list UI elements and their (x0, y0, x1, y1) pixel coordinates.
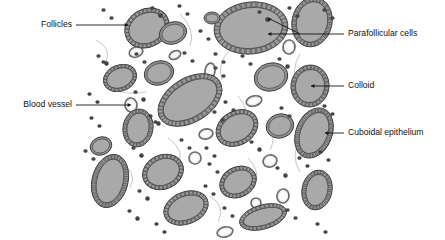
callout-follicles[interactable]: Follicles (41, 19, 128, 29)
epithelial-cell (329, 125, 333, 127)
epithelial-cell (295, 139, 299, 141)
epithelial-cell (143, 171, 147, 174)
parafollicular-cell (135, 52, 139, 55)
epithelial-cell (241, 3, 246, 9)
follicle (251, 59, 291, 95)
parafollicular-cell (149, 114, 153, 117)
parafollicular-cluster (180, 138, 192, 149)
parafollicular-cluster (224, 100, 236, 111)
parafollicular-cell (288, 6, 292, 9)
parafollicular-cell (280, 106, 284, 109)
parafollicular-cell (224, 100, 228, 103)
blood-vessel (276, 188, 290, 204)
parafollicular-cell (188, 146, 192, 149)
epithelial-cell (302, 186, 306, 189)
epithelial-cell (308, 42, 311, 46)
epithelial-cell (233, 194, 236, 197)
epithelial-cell (220, 185, 224, 189)
follicle (237, 199, 290, 235)
epithelial-cell (122, 65, 125, 68)
epithelial-cell (292, 22, 296, 25)
parafollicular-cell (151, 6, 155, 9)
parafollicular-cell (296, 14, 300, 17)
callout-cuboidal-epithelium[interactable]: Cuboidal epithelium (325, 127, 423, 137)
parafollicular-cluster (208, 162, 220, 173)
epithelial-cell (112, 155, 114, 159)
parafollicular-cell (207, 37, 211, 40)
epithelial-cell (240, 166, 243, 169)
epithelial-cell (295, 143, 299, 146)
parafollicular-cell (319, 150, 323, 153)
parafollicular-cluster (204, 184, 216, 195)
epithelial-cell (133, 74, 136, 77)
parafollicular-cell (92, 157, 96, 160)
follicle (211, 0, 290, 58)
parafollicular-cluster (316, 222, 328, 233)
epithelial-cell (310, 153, 313, 157)
epithelial-cell (256, 206, 260, 210)
epithelial-cell (159, 155, 163, 159)
stroma-strand (210, 196, 221, 222)
epithelial-cell (309, 0, 312, 2)
parafollicular-cell (214, 52, 218, 55)
epithelial-cell (139, 44, 143, 48)
follicle (159, 185, 214, 232)
parafollicular-cell (286, 208, 290, 211)
epithelial-cell (124, 169, 128, 172)
parafollicular-cell (128, 209, 132, 212)
parafollicular-cell (132, 146, 136, 149)
callout-parafollicular-cells[interactable]: Parafollicular cells (268, 18, 417, 38)
epithelial-cell (137, 143, 140, 147)
parafollicular-cell (323, 8, 327, 11)
parafollicular-cluster (183, 51, 195, 62)
parafollicular-cell (97, 54, 101, 57)
epithelial-cell (240, 110, 243, 114)
epithelial-cell (196, 74, 200, 79)
epithelial-cell (217, 126, 221, 130)
epithelial-cell (190, 191, 193, 195)
epithelial-cell (149, 129, 153, 132)
parafollicular-cell (90, 116, 94, 119)
vessel-lumen (191, 154, 200, 163)
stroma-strand (96, 40, 108, 62)
parafollicular-cell (88, 92, 92, 95)
parafollicular-cell (213, 154, 217, 157)
epithelial-cell (292, 26, 296, 29)
parafollicular-cell (204, 184, 208, 187)
blood-vessel (189, 152, 201, 164)
parafollicular-cell (258, 10, 262, 13)
epithelial-cell (92, 181, 96, 184)
thyroid-histology-figure: FolliclesBlood vesselParafollicular cell… (0, 0, 445, 240)
epithelial-cell (241, 48, 245, 53)
parafollicular-cell (324, 230, 328, 233)
parafollicular-cell (306, 164, 310, 167)
epithelial-cell (266, 224, 270, 228)
parafollicular-cluster (90, 116, 102, 127)
label-colloid: Colloid (348, 80, 374, 90)
parafollicular-cluster (223, 206, 235, 217)
epithelial-cell (325, 83, 329, 86)
epithelial-cell (106, 203, 108, 207)
callout-blood-vessel[interactable]: Blood vessel (23, 99, 131, 109)
epithelial-cell (230, 142, 233, 146)
parafollicular-cell (223, 206, 227, 209)
epithelial-cell (246, 49, 250, 54)
parafollicular-cell (284, 173, 288, 176)
epithelial-cell (220, 182, 224, 185)
epithelial-cell (123, 133, 127, 136)
parafollicular-cell (249, 62, 253, 65)
epithelial-cell (119, 88, 122, 91)
parafollicular-cell (178, 4, 182, 7)
label-parafollicular-cells: Parafollicular cells (348, 28, 417, 38)
epithelial-cell (149, 120, 153, 123)
epithelial-cell (235, 47, 240, 53)
parafollicular-cluster (213, 110, 225, 121)
epithelial-cell (123, 124, 127, 127)
parafollicular-cell (232, 108, 236, 111)
parafollicular-cluster (102, 8, 114, 19)
parafollicular-cell (96, 100, 100, 103)
epithelial-cell (155, 185, 159, 189)
label-blood-vessel: Blood vessel (23, 99, 72, 109)
parafollicular-cluster (276, 166, 288, 177)
epithelial-cell (125, 33, 129, 37)
